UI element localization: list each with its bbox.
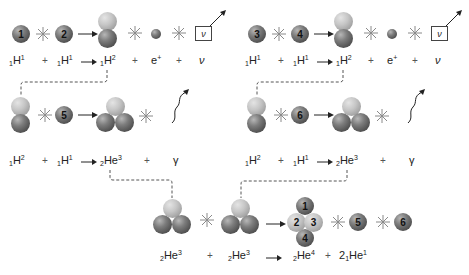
gamma-ray-wave-icon bbox=[406, 88, 428, 124]
deuterium-proton bbox=[11, 114, 30, 133]
starburst-icon bbox=[376, 215, 390, 229]
helium3-proton-b bbox=[115, 113, 134, 132]
proton-4: 4 bbox=[291, 25, 309, 43]
deuterium-proton bbox=[98, 29, 117, 48]
proton-1: 1 bbox=[12, 25, 30, 43]
released-proton-6: 6 bbox=[394, 213, 412, 231]
neutrino-box: ν bbox=[195, 26, 212, 41]
helium3-proton-b bbox=[351, 113, 370, 132]
starburst-icon bbox=[36, 27, 50, 41]
starburst-icon bbox=[331, 215, 345, 229]
positron bbox=[387, 29, 397, 39]
arrow-icon bbox=[314, 112, 334, 118]
starburst-icon bbox=[172, 26, 186, 40]
connector-lines bbox=[0, 0, 469, 275]
deuterium-proton bbox=[334, 29, 353, 48]
starburst-icon bbox=[38, 108, 52, 122]
positron bbox=[151, 29, 161, 39]
starburst-icon bbox=[364, 26, 378, 40]
arrow-icon bbox=[314, 31, 334, 37]
arrow-icon bbox=[78, 112, 98, 118]
neutrino-escape-arrow bbox=[210, 10, 226, 26]
helium3-proton-b bbox=[240, 215, 259, 234]
starburst-icon bbox=[128, 26, 142, 40]
helium3-proton-a bbox=[221, 215, 240, 234]
helium3-proton-a bbox=[332, 113, 351, 132]
proton-2: 2 bbox=[55, 25, 73, 43]
starburst-icon bbox=[274, 108, 288, 122]
proton-5: 5 bbox=[55, 106, 73, 124]
starburst-icon bbox=[408, 26, 422, 40]
helium3-proton-a bbox=[96, 113, 115, 132]
released-proton-5: 5 bbox=[349, 213, 367, 231]
gamma-ray-wave-icon bbox=[170, 88, 192, 124]
neutrino-box: ν bbox=[431, 26, 448, 41]
starburst-icon bbox=[272, 27, 286, 41]
helium3-proton-a bbox=[153, 215, 172, 234]
proton-3: 3 bbox=[248, 25, 266, 43]
arrow-icon bbox=[266, 221, 286, 227]
starburst-icon bbox=[139, 109, 153, 123]
helium4-nucleon-3: 3 bbox=[304, 213, 323, 232]
helium3-proton-b bbox=[172, 215, 191, 234]
neutrino-escape-arrow bbox=[446, 10, 462, 26]
starburst-icon bbox=[375, 109, 389, 123]
proton-6: 6 bbox=[291, 106, 309, 124]
arrow-icon bbox=[78, 31, 98, 37]
starburst-icon bbox=[200, 213, 214, 227]
deuterium-proton bbox=[247, 114, 266, 133]
